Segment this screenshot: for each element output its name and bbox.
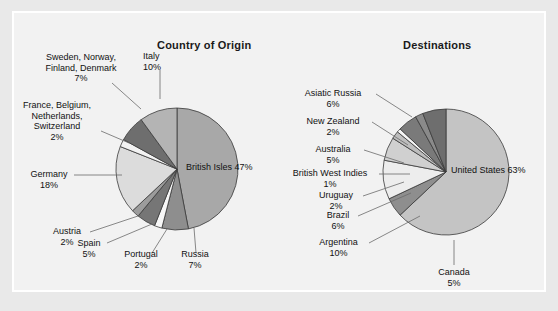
figure-root: Country of Origin Destinations (0, 0, 558, 311)
callout-australia-pct: 5% (304, 155, 362, 166)
slice-label-united-states-pct: 63% (508, 165, 526, 175)
slice-label-united-states: United States 63% (451, 165, 525, 176)
slice-label-united-states-name: United States (451, 165, 505, 175)
callout-canada: Canada 5% (430, 267, 478, 288)
callout-brazil: Brazil 6% (320, 210, 356, 231)
callout-lowlands-line2: Netherlands, (31, 111, 82, 121)
leader-line-argentina (369, 216, 420, 243)
pies-canvas (0, 0, 558, 311)
callout-canada-label: Canada (438, 267, 470, 277)
callout-russia-pct: 7% (172, 260, 218, 271)
callout-spain-label: Spain (77, 238, 100, 248)
callout-germany: Germany 18% (24, 169, 74, 190)
callout-lowlands-line3: Switzerland (34, 121, 81, 131)
callout-british-west-indies-pct: 1% (283, 179, 377, 190)
callout-asiatic-russia-pct: 6% (292, 99, 374, 110)
callout-asiatic-russia: Asiatic Russia 6% (292, 88, 374, 109)
callout-new-zealand: New Zealand 2% (296, 116, 370, 137)
callout-italy-pct: 10% (143, 62, 161, 73)
leader-line-spain (107, 224, 152, 243)
callout-brazil-pct: 6% (320, 221, 356, 232)
slice-label-british-isles: British Isles 47% (186, 162, 252, 173)
callout-scandinavia-line2: Finland, Denmark (45, 63, 116, 73)
callout-australia-label: Australia (315, 144, 350, 154)
callout-italy-label: Italy (143, 51, 160, 61)
callout-scandinavia: Sweden, Norway, Finland, Denmark 7% (26, 52, 136, 84)
callout-canada-pct: 5% (430, 278, 478, 289)
callout-new-zealand-pct: 2% (296, 127, 370, 138)
callout-argentina: Argentina 10% (310, 237, 367, 258)
callout-british-west-indies: British West Indies 1% (283, 168, 377, 189)
slice-label-british-isles-name: British Isles (186, 162, 232, 172)
callout-argentina-label: Argentina (319, 237, 358, 247)
callout-uruguay: Uruguay 2% (311, 190, 361, 211)
callout-lowlands: France, Belgium, Netherlands, Switzerlan… (14, 100, 100, 142)
callout-italy: Italy 10% (143, 51, 161, 72)
callout-portugal-label: Portugal (124, 249, 158, 259)
callout-portugal-pct: 2% (116, 260, 166, 271)
callout-new-zealand-label: New Zealand (306, 116, 359, 126)
callout-uruguay-label: Uruguay (319, 190, 353, 200)
callout-austria-label: Austria (53, 226, 81, 236)
leader-line-asiatic-russia (376, 94, 412, 117)
slice-label-british-isles-pct: 47% (235, 162, 253, 172)
callout-british-west-indies-label: British West Indies (293, 168, 367, 178)
leader-line-austria (90, 215, 141, 232)
callout-portugal: Portugal 2% (116, 249, 166, 270)
callout-asiatic-russia-label: Asiatic Russia (305, 88, 362, 98)
callout-lowlands-pct: 2% (14, 132, 100, 143)
callout-russia-label: Russia (181, 249, 209, 259)
callout-germany-pct: 18% (24, 180, 74, 191)
callout-lowlands-line1: France, Belgium, (23, 100, 91, 110)
callout-australia: Australia 5% (304, 144, 362, 165)
callout-russia: Russia 7% (172, 249, 218, 270)
callout-argentina-pct: 10% (310, 248, 367, 259)
callout-scandinavia-line1: Sweden, Norway, (46, 52, 116, 62)
callout-spain-pct: 5% (70, 249, 108, 260)
callout-scandinavia-pct: 7% (26, 73, 136, 84)
leader-line-scandinavia (112, 83, 141, 109)
callout-spain: Spain 5% (70, 238, 108, 259)
callout-germany-label: Germany (30, 169, 67, 179)
callout-brazil-label: Brazil (327, 210, 350, 220)
